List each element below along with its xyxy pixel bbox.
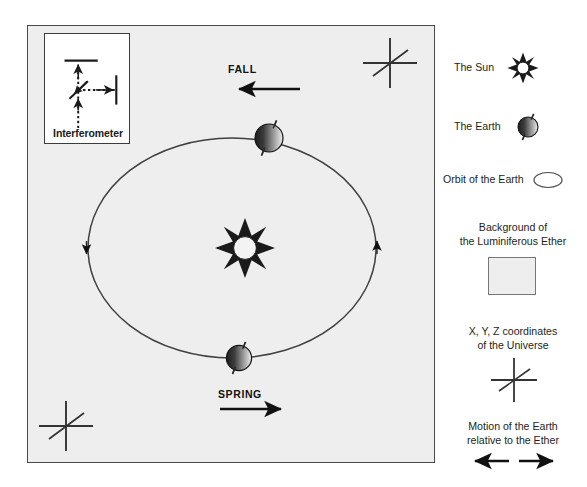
motion-arrows-icon [469,449,559,473]
coord-cross-top-right [363,38,417,88]
legend-ether-line2: the Luminiferous Ether [443,235,583,249]
ether-swatch-texture [489,258,535,294]
legend: The Sun The Earth Orbit of the Earth [443,25,583,465]
legend-item-motion: Motion of the Earth relative to the Ethe… [443,420,583,447]
earth-spring [226,342,251,374]
legend-orbit-label: Orbit of the Earth [443,173,524,187]
spring-label: SPRING [218,388,262,400]
earth-icon [513,110,543,144]
coord-cross-bottom-left [39,401,93,451]
legend-item-ether: Background of the Luminiferous Ether [443,221,583,248]
diagram-canvas: Interferometer FALL SPRING The Sun The E… [0,0,587,487]
legend-coordinates-line2: of the Universe [443,339,583,353]
fall-label: FALL [228,63,257,75]
coord-cross-icon [489,355,539,405]
legend-item-sun: The Sun [454,51,540,85]
legend-coordinates-line1: X, Y, Z coordinates [443,325,583,339]
sun-icon [215,218,275,278]
earth-fall [255,121,283,156]
sun-icon [506,51,540,85]
legend-item-orbit: Orbit of the Earth [443,170,564,190]
legend-motion-line1: Motion of the Earth [443,420,583,434]
orbit-ellipse-icon [532,170,564,190]
interferometer-inset: Interferometer [44,33,130,144]
legend-item-coordinates: X, Y, Z coordinates of the Universe [443,325,583,352]
legend-sun-label: The Sun [454,61,494,75]
ether-swatch [488,257,536,295]
legend-earth-label: The Earth [454,120,501,134]
legend-ether-line1: Background of [443,221,583,235]
interferometer-label: Interferometer [49,127,127,139]
legend-motion-line2: relative to the Ether [443,434,583,448]
legend-item-earth: The Earth [454,110,543,144]
